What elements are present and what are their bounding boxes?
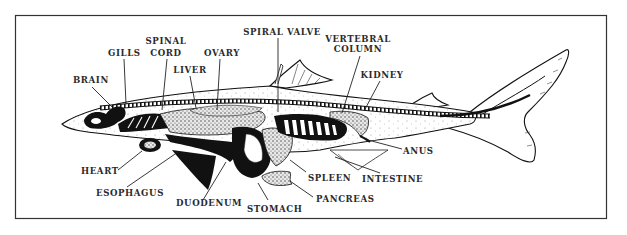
pelvic-fin	[330, 150, 388, 170]
leader-line-anus	[368, 140, 402, 149]
label-spinal-cord-2: CORD	[150, 48, 181, 58]
label-ovary: OVARY	[204, 48, 240, 58]
label-spiral-valve: SPIRAL VALVE	[243, 27, 321, 37]
pectoral-fin	[172, 150, 216, 190]
leader-line-spleen	[290, 160, 306, 172]
shark-anatomy-diagram: BRAINGILLSSPINALCORDLIVEROVARYSPIRAL VAL…	[0, 0, 627, 235]
label-heart: HEART	[81, 166, 119, 176]
caudal-fin	[448, 50, 569, 162]
leader-line-gills	[124, 59, 126, 104]
label-anus: ANUS	[402, 146, 434, 156]
leader-line-pancreas	[290, 181, 313, 197]
leader-line-stomach	[258, 183, 268, 200]
pancreas	[262, 171, 292, 185]
label-duodenum: DUODENUM	[176, 198, 242, 208]
label-stomach: STOMACH	[247, 204, 302, 214]
leader-line-brain	[92, 87, 112, 107]
label-esophagus: ESOPHAGUS	[96, 188, 164, 198]
label-kidney: KIDNEY	[360, 70, 403, 80]
label-vertebral-column-2: COLUMN	[334, 44, 382, 54]
label-pancreas: PANCREAS	[316, 194, 375, 204]
label-brain: BRAIN	[73, 75, 109, 85]
label-spinal-cord-1: SPINAL	[146, 36, 187, 46]
label-liver: LIVER	[173, 65, 207, 75]
leader-line-heart	[118, 151, 142, 170]
label-spleen: SPLEEN	[308, 173, 351, 183]
label-gills: GILLS	[108, 48, 141, 58]
label-intestine: INTESTINE	[362, 174, 423, 184]
label-vertebral-column-1: VERTEBRAL	[324, 34, 391, 44]
